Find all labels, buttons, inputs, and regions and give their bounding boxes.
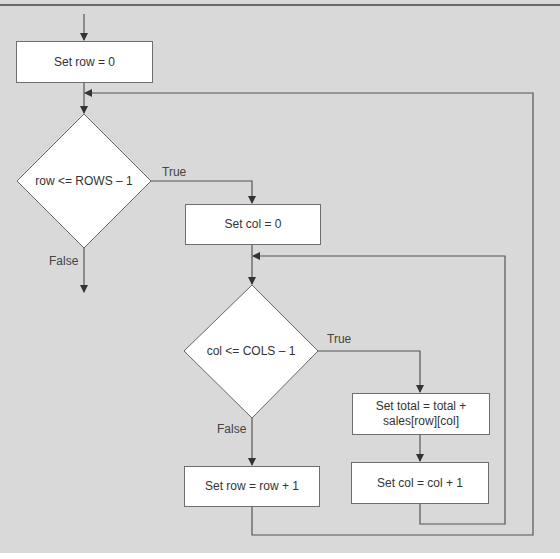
rows-false-label: False	[49, 254, 78, 268]
process-set-col-zero: Set col = 0	[185, 204, 321, 245]
rows-true-label: True	[162, 165, 186, 179]
process-label: Set row = 0	[54, 55, 115, 70]
decision-cols-label: col <= COLS – 1	[184, 344, 318, 358]
process-label: Set col = col + 1	[377, 476, 463, 491]
cols-true-label: True	[327, 332, 351, 346]
process-increment-row: Set row = row + 1	[184, 466, 320, 507]
process-increment-col: Set col = col + 1	[351, 462, 489, 504]
process-set-row-zero: Set row = 0	[16, 41, 153, 83]
process-set-total: Set total = total + sales[row][col]	[352, 393, 490, 435]
process-label: Set row = row + 1	[205, 479, 299, 494]
process-label-line1: Set total = total +	[376, 399, 467, 414]
cols-false-label: False	[217, 422, 246, 436]
process-label: Set col = 0	[224, 217, 281, 232]
decision-rows-label: row <= ROWS – 1	[17, 174, 151, 188]
process-label-line2: sales[row][col]	[383, 414, 459, 429]
